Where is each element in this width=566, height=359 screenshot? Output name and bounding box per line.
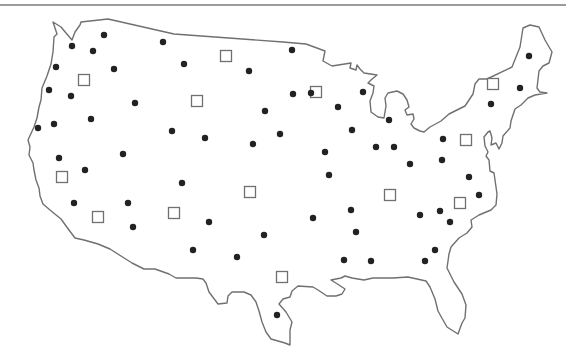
map-background bbox=[0, 0, 566, 359]
dot-marker bbox=[82, 167, 88, 173]
dot-marker bbox=[69, 43, 75, 49]
dot-marker bbox=[422, 258, 428, 264]
dot-marker bbox=[125, 200, 131, 206]
dot-marker bbox=[179, 180, 185, 186]
dot-marker bbox=[234, 254, 240, 260]
dot-marker bbox=[310, 215, 316, 221]
dot-marker bbox=[111, 66, 117, 72]
dot-marker bbox=[476, 192, 482, 198]
square-marker bbox=[461, 135, 472, 146]
us-map-canvas bbox=[0, 0, 566, 359]
dot-marker bbox=[360, 89, 366, 95]
dot-marker bbox=[349, 127, 355, 133]
dot-marker bbox=[262, 108, 268, 114]
dot-marker bbox=[526, 53, 532, 59]
dot-marker bbox=[250, 141, 256, 147]
dot-marker bbox=[348, 207, 354, 213]
dot-marker bbox=[517, 85, 523, 91]
dot-marker bbox=[35, 125, 41, 131]
dot-marker bbox=[71, 200, 77, 206]
dot-marker bbox=[466, 174, 472, 180]
square-marker bbox=[385, 190, 396, 201]
map-figure bbox=[0, 0, 566, 359]
square-marker bbox=[169, 208, 180, 219]
dot-marker bbox=[261, 232, 267, 238]
dot-marker bbox=[56, 155, 62, 161]
square-marker bbox=[79, 75, 90, 86]
dot-marker bbox=[53, 64, 59, 70]
square-marker bbox=[488, 79, 499, 90]
dot-marker bbox=[202, 135, 208, 141]
dot-marker bbox=[437, 208, 443, 214]
dot-marker bbox=[407, 161, 413, 167]
dot-marker bbox=[290, 91, 296, 97]
dot-marker bbox=[88, 116, 94, 122]
square-marker bbox=[245, 187, 256, 198]
dot-marker bbox=[169, 128, 175, 134]
dot-marker bbox=[335, 104, 341, 110]
dot-marker bbox=[373, 144, 379, 150]
square-marker bbox=[455, 198, 466, 209]
dot-marker bbox=[181, 61, 187, 67]
dot-marker bbox=[326, 172, 332, 178]
dot-marker bbox=[440, 136, 446, 142]
dot-marker bbox=[206, 219, 212, 225]
dot-marker bbox=[46, 87, 52, 93]
dot-marker bbox=[488, 101, 494, 107]
dot-marker bbox=[368, 258, 374, 264]
dot-marker bbox=[246, 68, 252, 74]
dot-marker bbox=[432, 247, 438, 253]
dot-marker bbox=[274, 312, 280, 318]
dot-marker bbox=[101, 32, 107, 38]
square-marker bbox=[192, 96, 203, 107]
dot-marker bbox=[289, 47, 295, 53]
dot-marker bbox=[386, 117, 392, 123]
dot-marker bbox=[90, 48, 96, 54]
dot-marker bbox=[132, 100, 138, 106]
dot-marker bbox=[68, 93, 74, 99]
dot-marker bbox=[447, 219, 453, 225]
dot-marker bbox=[308, 90, 314, 96]
dot-marker bbox=[277, 131, 283, 137]
square-marker bbox=[57, 172, 68, 183]
square-marker bbox=[277, 272, 288, 283]
square-marker bbox=[93, 212, 104, 223]
square-marker bbox=[221, 51, 232, 62]
dot-marker bbox=[417, 212, 423, 218]
dot-marker bbox=[353, 229, 359, 235]
dot-marker bbox=[120, 151, 126, 157]
dot-marker bbox=[190, 247, 196, 253]
dot-marker bbox=[322, 149, 328, 155]
dot-marker bbox=[130, 224, 136, 230]
dot-marker bbox=[160, 39, 166, 45]
dot-marker bbox=[391, 144, 397, 150]
dot-marker bbox=[51, 121, 57, 127]
dot-marker bbox=[341, 257, 347, 263]
dot-marker bbox=[439, 157, 445, 163]
